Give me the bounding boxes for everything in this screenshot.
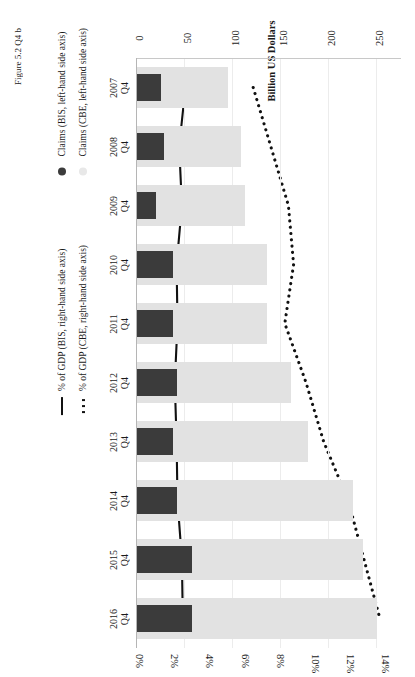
legend-label: % of GDP (CBE, right-hand side axis) xyxy=(78,245,88,391)
category-quarter: Q4 xyxy=(119,81,130,93)
bar-bis-claims xyxy=(137,487,177,514)
y-axis-title: Billion US Dollars xyxy=(266,6,277,116)
category-year: 2008 xyxy=(108,137,119,157)
bar-bis-claims xyxy=(137,428,173,455)
x-axis-category-label: 2011Q4 xyxy=(109,300,130,348)
legend-dotted-line-icon xyxy=(82,397,85,415)
figure-caption: Figure 5.2 Q4 b xyxy=(13,28,23,85)
x-axis-category-label: 2014Q4 xyxy=(109,477,130,525)
bar-bis-claims xyxy=(137,192,156,219)
y2-axis-tick-label: 6% xyxy=(240,654,251,677)
x-axis-category-label: 2008Q4 xyxy=(109,123,130,171)
category-quarter: Q4 xyxy=(119,140,130,152)
x-axis-category-label: 2012Q4 xyxy=(109,359,130,407)
y2-axis-tick-label: 14% xyxy=(380,654,391,677)
y2-axis-tick-label: 12% xyxy=(345,654,356,677)
bar-bis-claims xyxy=(137,605,192,632)
legend-item[interactable]: Claims (CBE, left-hand side axis) xyxy=(78,28,88,182)
bar-bis-claims xyxy=(137,133,164,160)
category-year: 2007 xyxy=(108,78,119,98)
category-year: 2014 xyxy=(108,491,119,511)
x-axis-category-label: 2015Q4 xyxy=(109,536,130,584)
chart-legend-right: % of GDP (BIS, right-hand side axis) % o… xyxy=(57,245,99,416)
category-quarter: Q4 xyxy=(119,612,130,624)
gridline-value xyxy=(376,58,377,648)
y-axis-tick-label: 100 xyxy=(230,24,241,52)
bar-bis-claims xyxy=(137,74,161,101)
y-axis-tick-label: 250 xyxy=(374,24,385,52)
x-axis-category-label: 2016Q4 xyxy=(109,595,130,643)
category-year: 2011 xyxy=(108,314,119,334)
legend-marker xyxy=(61,396,63,416)
y-axis-tick-label: 0 xyxy=(134,24,145,52)
legend-dot-light-icon xyxy=(79,168,87,176)
category-quarter: Q4 xyxy=(119,199,130,211)
category-year: 2009 xyxy=(108,196,119,216)
y-axis-spine xyxy=(137,58,401,59)
legend-dot-dark-icon xyxy=(58,168,66,176)
bar-bis-claims xyxy=(137,369,177,396)
category-year: 2013 xyxy=(108,432,119,452)
category-quarter: Q4 xyxy=(119,376,130,388)
legend-item[interactable]: % of GDP (CBE, right-hand side axis) xyxy=(78,245,88,416)
chart-legend-left: Claims (BIS, left-hand side axis) Claims… xyxy=(57,28,99,182)
bar-bis-claims xyxy=(137,546,192,573)
y-axis-tick-label: 200 xyxy=(326,24,337,52)
x-axis-category-label: 2010Q4 xyxy=(109,241,130,289)
legend-label: Claims (CBE, left-hand side axis) xyxy=(78,28,88,157)
bar-bis-claims xyxy=(137,310,173,337)
legend-marker xyxy=(58,162,66,182)
x-axis-category-label: 2007Q4 xyxy=(109,64,130,112)
x-axis-category-label: 2013Q4 xyxy=(109,418,130,466)
y-axis-tick-label: 150 xyxy=(278,24,289,52)
legend-item[interactable]: % of GDP (BIS, right-hand side axis) xyxy=(57,245,67,416)
y2-axis-tick-label: 10% xyxy=(310,654,321,677)
category-year: 2016 xyxy=(108,609,119,629)
category-quarter: Q4 xyxy=(119,317,130,329)
category-quarter: Q4 xyxy=(119,553,130,565)
y2-axis-tick-label: 2% xyxy=(169,654,180,677)
legend-marker xyxy=(79,162,87,182)
y-axis-tick-label: 50 xyxy=(182,24,193,52)
category-quarter: Q4 xyxy=(119,435,130,447)
legend-label: Claims (BIS, left-hand side axis) xyxy=(57,32,67,157)
legend-label: % of GDP (BIS, right-hand side axis) xyxy=(57,249,67,391)
category-quarter: Q4 xyxy=(119,258,130,270)
bar-bis-claims xyxy=(137,251,173,278)
x-axis-category-label: 2009Q4 xyxy=(109,182,130,230)
category-year: 2010 xyxy=(108,255,119,275)
y2-axis-tick-label: 4% xyxy=(204,654,215,677)
legend-item[interactable]: Claims (BIS, left-hand side axis) xyxy=(57,28,67,182)
category-quarter: Q4 xyxy=(119,494,130,506)
legend-solid-line-icon xyxy=(61,397,63,415)
legend-marker xyxy=(82,396,85,416)
y2-axis-tick-label: 8% xyxy=(275,654,286,677)
category-year: 2015 xyxy=(108,550,119,570)
category-year: 2012 xyxy=(108,373,119,393)
y2-axis-tick-label: 0% xyxy=(134,654,145,677)
